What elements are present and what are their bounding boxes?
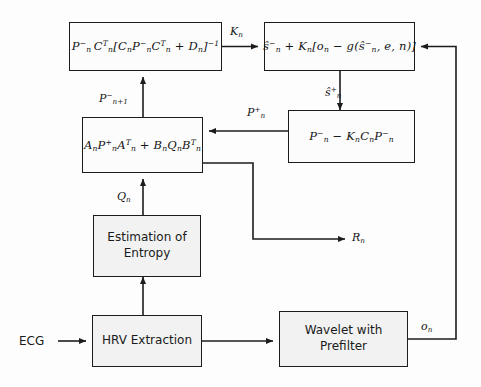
block-hrv-extraction[interactable]: HRV Extraction [92,315,202,367]
wire-observation-feedback [408,47,456,340]
label-ecg-input: ECG [19,334,44,348]
wire-measurement-noise [203,163,345,239]
label-process-noise: Qn [117,190,131,203]
wavelet-prefilter-line1: Wavelet with [305,323,383,339]
hrv-extraction-label: HRV Extraction [102,333,192,349]
block-diagram: P−n CTn[CnP−nCTn + Dn]−1 ŝ−n + Kn[on − g… [0,0,481,387]
block-state-update[interactable]: ŝ−n + Kn[on − g(ŝ−n, e, n)] [264,22,415,71]
label-kalman-gain: Kn [230,25,243,38]
entropy-estimation-line2: Entropy [124,246,171,262]
block-covariance-update[interactable]: P−n − KnCnP−n [288,110,415,163]
block-entropy-estimation[interactable]: Estimation of Entropy [93,215,201,277]
block-wavelet-prefilter[interactable]: Wavelet with Prefilter [279,311,408,367]
block-covariance-predict[interactable]: AnP+nATn + BnQnBTn [82,117,203,173]
formula-covariance-predict: AnP+nATn + BnQnBTn [84,138,201,153]
label-p-plus: P+n [247,106,265,119]
wavelet-prefilter-line2: Prefilter [320,339,367,355]
formula-state-update: ŝ−n + Kn[on − g(ŝ−n, e, n)] [263,39,416,54]
label-observation: on [421,320,432,333]
label-p-minus-next: P−n+1 [99,92,128,105]
entropy-estimation-line1: Estimation of [107,230,186,246]
formula-kalman-gain: P−n CTn[CnP−nCTn + Dn]−1 [72,39,220,54]
formula-covariance-update: P−n − KnCnP−n [309,129,394,144]
label-s-plus: ŝ+n [325,86,341,99]
label-measurement-noise: Rn [352,231,365,244]
block-kalman-gain[interactable]: P−n CTn[CnP−nCTn + Dn]−1 [69,22,222,71]
